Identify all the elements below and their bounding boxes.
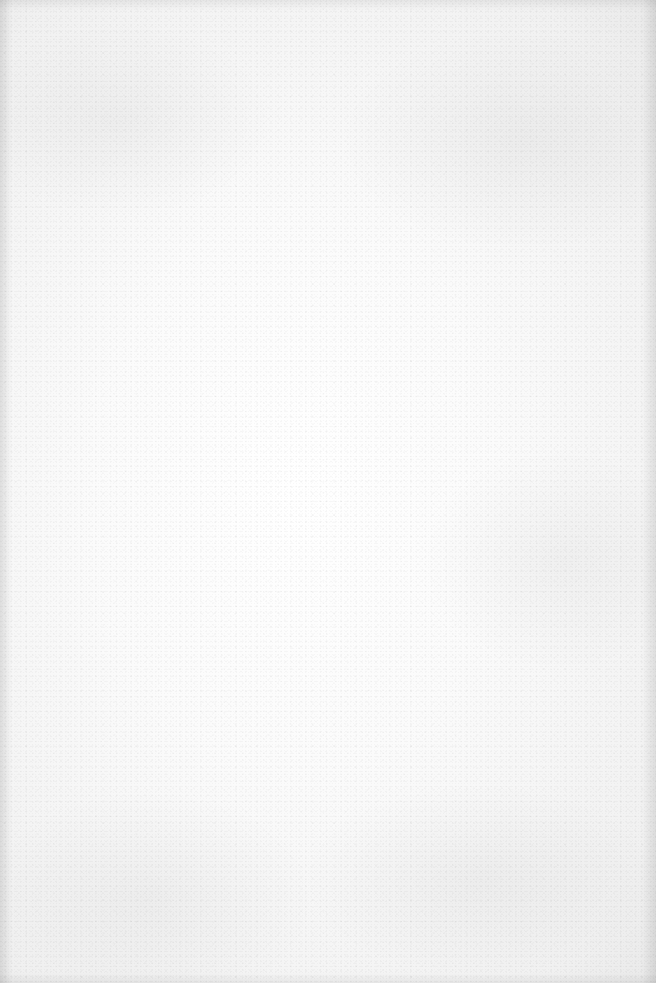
blank-paper-page xyxy=(0,0,656,983)
page-edge-top-shadow xyxy=(0,0,656,10)
page-edge-right-shadow xyxy=(642,0,656,983)
page-edge-bottom-shadow xyxy=(0,973,656,983)
page-edge-left-shadow xyxy=(0,0,12,983)
paper-grain xyxy=(0,0,656,983)
